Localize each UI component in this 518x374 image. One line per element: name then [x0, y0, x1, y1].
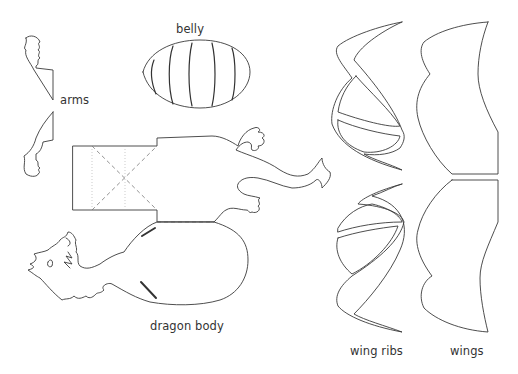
arm-lower — [24, 112, 53, 176]
dragon-template-diagram — [0, 0, 518, 374]
belly-label: belly — [176, 22, 204, 36]
wing-ribs-top — [332, 22, 404, 170]
wings-label: wings — [450, 344, 484, 358]
belly-piece — [143, 40, 250, 108]
dragon-body-label: dragon body — [150, 319, 224, 333]
wing-bottom — [417, 180, 498, 332]
dragon-body-piece — [28, 127, 330, 304]
wing-ribs-bottom — [337, 184, 405, 332]
wing-top — [417, 22, 498, 174]
wing-ribs-label: wing ribs — [350, 344, 403, 358]
arm-upper — [25, 36, 53, 100]
arms-label: arms — [60, 93, 89, 107]
